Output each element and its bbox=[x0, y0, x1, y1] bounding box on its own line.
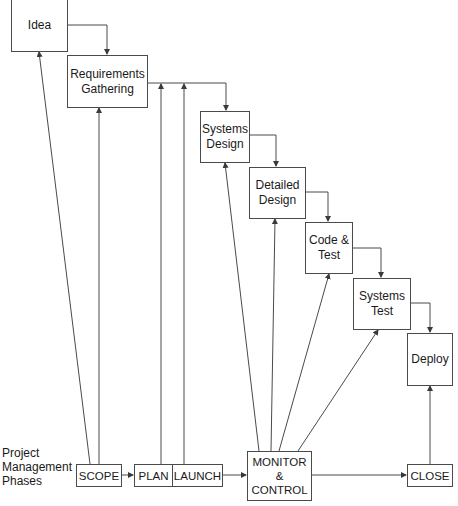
phase-close: CLOSE bbox=[407, 464, 453, 487]
diagram-canvas: Idea Requirements Gathering Systems Desi… bbox=[0, 0, 458, 506]
phase-scope: SCOPE bbox=[76, 464, 122, 487]
phase-plan: PLAN bbox=[134, 464, 173, 487]
pm-phases-label: Project Management Phases bbox=[2, 446, 72, 488]
stage-systems-design: Systems Design bbox=[200, 111, 250, 163]
stage-deploy: Deploy bbox=[407, 333, 453, 386]
phase-monitor-control: MONITOR & CONTROL bbox=[247, 451, 312, 501]
stage-idea: Idea bbox=[11, 0, 68, 52]
stage-requirements-gathering: Requirements Gathering bbox=[67, 55, 148, 108]
stage-detailed-design: Detailed Design bbox=[249, 167, 306, 219]
stage-systems-test: Systems Test bbox=[353, 278, 411, 330]
stage-code-test: Code & Test bbox=[305, 222, 353, 274]
phase-launch: LAUNCH bbox=[172, 464, 223, 487]
